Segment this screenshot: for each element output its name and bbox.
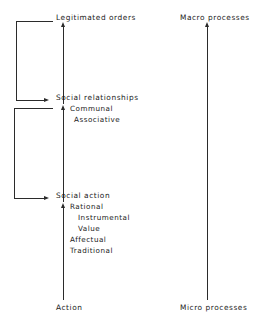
- node-social-action-sub-rational: Rational: [70, 202, 103, 211]
- arrowhead-into-legitimated-orders: [61, 22, 65, 27]
- feedback-loop-1-vertical-segment: [16, 21, 17, 100]
- node-social-action-sub-traditional: Traditional: [70, 246, 113, 255]
- feedback-loop-2-bottom-segment: [14, 198, 44, 199]
- node-social-action: Social action: [56, 191, 110, 200]
- node-social-relationships-sub-associative: Associative: [74, 115, 120, 124]
- main-axis-line-social-action-to-relationships: [63, 110, 64, 202]
- arrowhead-into-macro-processes: [205, 22, 209, 27]
- arrowhead-into-social-relationships: [61, 105, 65, 110]
- node-social-relationships-sub-communal: Communal: [70, 104, 113, 113]
- feedback-loop-1-bottom-segment: [16, 100, 44, 101]
- node-action: Action: [56, 303, 82, 312]
- arrowhead-feedback-loop-2: [44, 196, 49, 200]
- feedback-loop-1-top-segment: [16, 21, 53, 22]
- arrowhead-feedback-loop-1: [44, 98, 49, 102]
- main-axis-line-action-to-social-action: [63, 208, 64, 300]
- feedback-loop-2-top-segment: [14, 108, 53, 109]
- node-social-relationships: Social relationships: [56, 93, 139, 102]
- node-legitimated-orders: Legitimated orders: [56, 13, 136, 22]
- node-macro-processes: Macro processes: [180, 13, 250, 22]
- diagram-canvas: Legitimated orders Social relationships …: [0, 0, 264, 327]
- node-social-action-sub-affectual: Affectual: [70, 235, 106, 244]
- node-social-action-sub-instrumental: Instrumental: [78, 213, 130, 222]
- feedback-loop-2-vertical-segment: [14, 108, 15, 198]
- macro-micro-axis-line: [207, 27, 208, 300]
- arrowhead-into-social-action: [61, 203, 65, 208]
- node-social-action-sub-value: Value: [78, 224, 100, 233]
- node-micro-processes: Micro processes: [180, 303, 247, 312]
